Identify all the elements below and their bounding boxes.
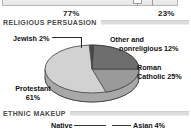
pie-label-protestant-line2: 61% [26,93,40,102]
section-rule [101,20,189,25]
section-title-ethnic: ETHNIC MAKEUP [3,110,70,117]
pie-label-catholic-line1: Roman [137,63,161,72]
bar-divider [152,0,153,6]
pie-label-catholic-line2: Catholic 25% [137,72,182,81]
jewish-leader-line-vertical [81,37,82,48]
clipped-bar-strip [0,0,191,8]
section-rule [70,111,189,116]
ethnic-label-native: Native [51,121,73,130]
jewish-leader-line-horizontal [52,37,82,38]
pie-label-other-line1: Other and [110,35,144,44]
bar-percent-left: 77% [63,9,80,18]
section-title-religious: RELIGIOUS PERSUASION [3,19,101,26]
pie-label-protestant: Protestant 61% [7,84,59,102]
ethnic-leader-line-asian [112,125,131,126]
bar-segment-marker [133,0,142,4]
ethnic-label-asian: Asian 4% [133,121,165,130]
bar-percent-right: 23% [158,9,175,18]
pie-label-other-nonreligious: Other and nonreligious 12% [110,35,179,53]
ethnic-leader-line-native [74,125,106,126]
pie-label-other-line2: nonreligious 12% [110,44,179,53]
pie-label-protestant-line1: Protestant [15,84,51,93]
section-header-religious: RELIGIOUS PERSUASION [3,19,189,26]
pie-label-roman-catholic: Roman Catholic 25% [137,63,182,81]
ethnic-labels-clipped: Native Asian 4% [0,121,191,131]
section-header-ethnic: ETHNIC MAKEUP [3,110,189,117]
pie-label-jewish: Jewish 2% [13,34,49,43]
